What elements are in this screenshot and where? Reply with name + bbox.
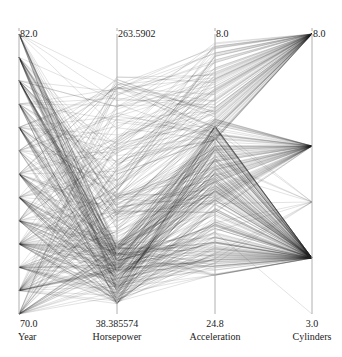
axis-cylinders-min: 3.0 [306,318,319,329]
axis-acceleration-title: Acceleration [189,331,240,342]
polylines [19,34,312,314]
axis-cylinders-title: Cylinders [293,331,332,342]
axis-year-max: 82.0 [20,28,38,39]
axis-horsepower-title: Horsepower [93,331,143,342]
axis-horsepower-max: 263.5902 [118,28,156,39]
axis-acceleration-max: 8.0 [216,28,229,39]
axis-cylinders-max: 8.0 [313,28,326,39]
axis-year-min: 70.0 [20,318,38,329]
axis-acceleration-min: 24.8 [206,318,224,329]
parallel-coordinates-chart: 82.0 70.0 Year 263.5902 38.385574 Horsep… [0,0,342,357]
axis-horsepower-min: 38.385574 [96,318,139,329]
axis-cylinders: 8.0 3.0 Cylinders [293,28,332,342]
axis-year-title: Year [18,331,37,342]
